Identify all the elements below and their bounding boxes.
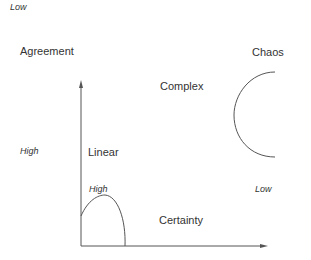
axes: [81, 84, 263, 246]
vertical-axis-arrow-icon: [79, 80, 83, 88]
chaos-zone-arc: [234, 72, 275, 157]
horizontal-axis-arrow-icon: [260, 244, 268, 248]
diagram-graphics: [0, 0, 311, 260]
linear-zone-curve: [81, 195, 125, 246]
